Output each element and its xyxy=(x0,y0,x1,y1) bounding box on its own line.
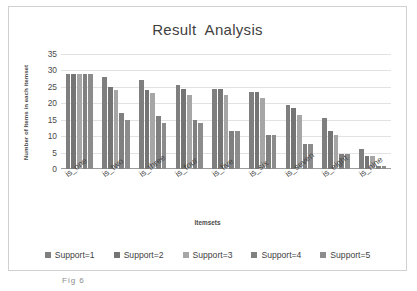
bar-group xyxy=(61,54,98,169)
y-axis-tick-label: 30 xyxy=(48,65,57,75)
bar xyxy=(255,92,260,169)
bars-layer xyxy=(61,54,391,169)
bar xyxy=(145,90,150,169)
legend-label: Support=5 xyxy=(330,250,370,260)
legend-label: Support=3 xyxy=(193,250,233,260)
chart-title: Result Analysis xyxy=(9,21,406,38)
bar xyxy=(382,166,387,169)
bar xyxy=(102,77,107,169)
bar xyxy=(125,120,130,169)
chart-container: Result Analysis Number of Items in each … xyxy=(8,6,407,271)
bar xyxy=(77,74,82,169)
bar xyxy=(66,74,71,169)
y-axis-tick-label: 20 xyxy=(48,98,57,108)
y-axis-title: Number of Items in each itemset xyxy=(22,53,29,173)
legend-label: Support=2 xyxy=(124,250,164,260)
x-axis-tick-labels: is_oneis_twois_threeis_fouris_fiveis_six… xyxy=(61,171,391,219)
bar xyxy=(88,74,93,169)
bar xyxy=(71,74,76,169)
bar xyxy=(286,105,291,169)
legend-item[interactable]: Support=5 xyxy=(320,250,370,260)
bar xyxy=(235,131,240,169)
y-axis-tick-label: 25 xyxy=(48,82,57,92)
legend-swatch-icon xyxy=(251,252,257,258)
legend-item[interactable]: Support=1 xyxy=(45,250,95,260)
bar-group xyxy=(208,54,245,169)
bar-group xyxy=(244,54,281,169)
bar xyxy=(249,92,254,169)
y-axis-tick-label: 5 xyxy=(52,148,57,158)
legend-item[interactable]: Support=4 xyxy=(251,250,301,260)
y-axis-tick-label: 35 xyxy=(48,49,57,59)
legend-swatch-icon xyxy=(45,252,51,258)
y-axis-tick-label: 10 xyxy=(48,131,57,141)
bar xyxy=(108,87,113,169)
bar-group xyxy=(281,54,318,169)
legend-swatch-icon xyxy=(183,252,189,258)
bar xyxy=(212,89,217,170)
y-axis-tick-label: 15 xyxy=(48,115,57,125)
bar xyxy=(322,118,327,169)
bar-group xyxy=(98,54,135,169)
bar-group xyxy=(134,54,171,169)
bar xyxy=(181,89,186,170)
chart-legend: Support=1Support=2Support=3Support=4Supp… xyxy=(9,250,406,260)
bar-group xyxy=(354,54,391,169)
bar xyxy=(139,80,144,169)
legend-swatch-icon xyxy=(114,252,120,258)
x-axis-title: Itemsets xyxy=(9,219,406,226)
figure-caption: Fig 6 xyxy=(62,276,85,285)
bar xyxy=(218,89,223,170)
plot-area: 05101520253035 xyxy=(61,54,391,169)
legend-label: Support=1 xyxy=(55,250,95,260)
y-axis-tick-label: 0 xyxy=(52,164,57,174)
legend-swatch-icon xyxy=(320,252,326,258)
bar xyxy=(272,135,277,170)
legend-item[interactable]: Support=3 xyxy=(183,250,233,260)
bar-group xyxy=(318,54,355,169)
bar xyxy=(83,74,88,169)
bar-group xyxy=(171,54,208,169)
legend-item[interactable]: Support=2 xyxy=(114,250,164,260)
bar xyxy=(176,85,181,169)
legend-label: Support=4 xyxy=(261,250,301,260)
